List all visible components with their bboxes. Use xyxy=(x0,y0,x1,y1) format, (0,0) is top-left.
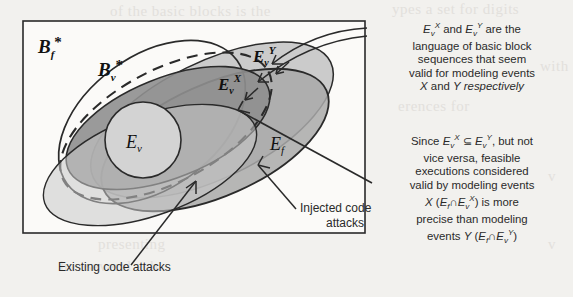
annotation-bottom-line-6: precise than modeling xyxy=(374,213,570,226)
annotation-bottom-line-7: events Y (Ef∩EvY) xyxy=(374,226,570,247)
annotation-top-line-5: X and Y respectively xyxy=(374,80,570,93)
annotation-bottom-line-5: X (Ef∩EvX) is more xyxy=(374,192,570,213)
annotation-bottom: Since EvX ⊆ EvY, but not vice versa, fea… xyxy=(374,131,570,248)
region-ev xyxy=(105,102,181,178)
callout-injected-line2: attacks xyxy=(326,216,364,230)
annotation-top-line-1: EvX and EvY are the xyxy=(374,19,570,40)
annotation-top-line-2: language of basic block xyxy=(374,40,570,53)
figure-root: ypes a set for digits of the basic block… xyxy=(0,0,573,297)
annotation-top-line-4: valid for modeling events xyxy=(374,67,570,80)
annotation-bottom-line-1: Since EvX ⊆ EvY, but not xyxy=(374,131,570,152)
annotation-bottom-line-4: valid by modeling events xyxy=(374,179,570,192)
callout-injected-line1: Injected code xyxy=(300,201,372,215)
annotation-top-line-3: sequences that seem xyxy=(374,53,570,66)
callout-existing-line1: Existing code attacks xyxy=(58,260,171,274)
annotation-top: EvX and EvY are the language of basic bl… xyxy=(374,19,570,93)
annotation-bottom-line-2: vice versa, feasible xyxy=(374,152,570,165)
annotation-bottom-line-3: executions considered xyxy=(374,165,570,178)
